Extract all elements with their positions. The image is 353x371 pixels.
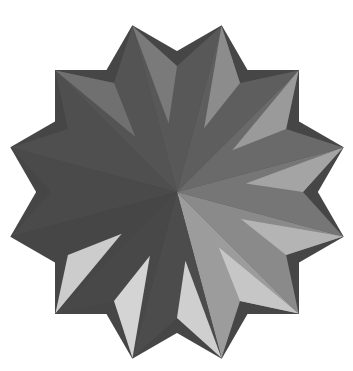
star-figure-canvas — [0, 0, 353, 371]
twelve-point-star-figure — [0, 0, 353, 371]
shaded-wedges — [11, 26, 343, 358]
